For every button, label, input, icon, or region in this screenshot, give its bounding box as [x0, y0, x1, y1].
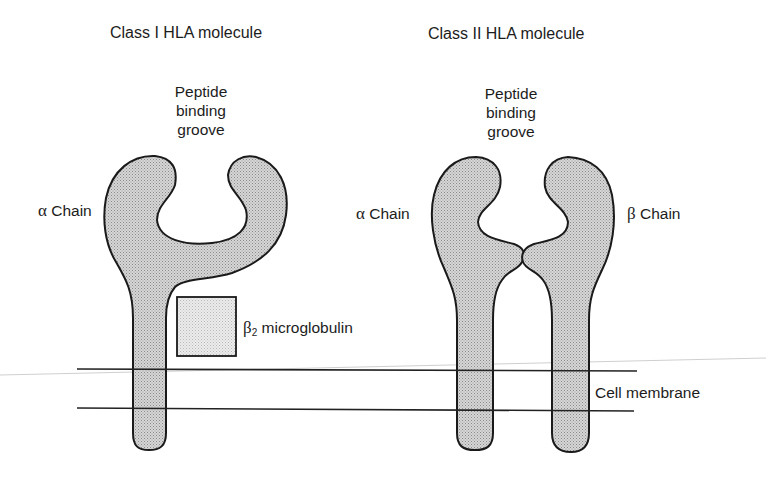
- beta-symbol: β: [243, 318, 252, 337]
- class2-groove-line1: Peptide: [471, 84, 551, 103]
- hla-diagram: [0, 0, 766, 482]
- class2-groove-label: Peptide binding groove: [471, 84, 551, 141]
- b2m-label: β2 microglobulin: [243, 318, 353, 342]
- beta-symbol: β: [627, 204, 636, 223]
- class2-beta-chain: [522, 157, 614, 452]
- faint-line: [0, 358, 766, 375]
- class2-title: Class II HLA molecule: [428, 24, 585, 43]
- class1-title: Class I HLA molecule: [110, 23, 262, 42]
- class1-groove-line2: binding: [161, 101, 241, 120]
- alpha-symbol: α: [356, 204, 365, 223]
- b2m-box: [177, 297, 236, 356]
- class2-alpha-chain: [432, 157, 524, 450]
- class1-groove-line3: groove: [161, 120, 241, 139]
- class2-alpha-label: α Chain: [356, 204, 410, 223]
- b2m-subscript: 2: [252, 327, 258, 338]
- class2-alpha-text: Chain: [369, 205, 410, 222]
- class1-groove-line1: Peptide: [161, 82, 241, 101]
- class2-beta-label: β Chain: [627, 204, 680, 223]
- class1-alpha-text: Chain: [51, 202, 92, 219]
- cell-membrane-label: Cell membrane: [595, 383, 700, 402]
- class2-groove-line2: binding: [471, 103, 551, 122]
- class2-groove-line3: groove: [471, 122, 551, 141]
- b2m-text: microglobulin: [262, 319, 353, 336]
- class1-alpha-label: α Chain: [38, 201, 92, 220]
- class2-beta-text: Chain: [640, 205, 681, 222]
- class1-groove-label: Peptide binding groove: [161, 82, 241, 139]
- alpha-symbol: α: [38, 201, 47, 220]
